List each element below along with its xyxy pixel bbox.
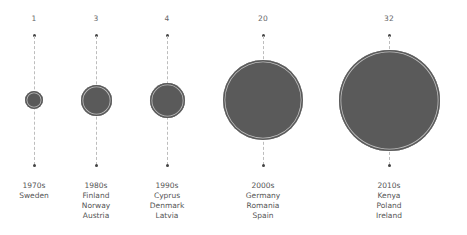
category-labels: 2000s Germany Romania Spain (228, 181, 298, 221)
country-label: Romania (228, 201, 298, 211)
bottom-marker-dot (95, 164, 98, 167)
decade-label: 1990s (132, 181, 202, 191)
category-labels: 1970s Sweden (0, 181, 69, 201)
bottom-marker-dot (33, 164, 36, 167)
category-labels: 1980s Finland Norway Austria (61, 181, 131, 221)
country-label: Finland (61, 191, 131, 201)
bottom-marker-dot (166, 164, 169, 167)
country-label: Austria (61, 211, 131, 221)
bubble-chart: 1 1970s Sweden 3 1980s Finland Norway Au… (0, 0, 467, 235)
decade-label: 2010s (354, 181, 424, 191)
data-bubble (25, 91, 43, 109)
country-label: Ireland (354, 211, 424, 221)
value-label: 32 (369, 14, 409, 23)
country-label: Germany (228, 191, 298, 201)
country-label: Norway (61, 201, 131, 211)
data-bubble (150, 83, 185, 118)
country-label: Latvia (132, 211, 202, 221)
value-label: 3 (76, 14, 116, 23)
category-labels: 2010s Kenya Poland Ireland (354, 181, 424, 221)
country-label: Poland (354, 201, 424, 211)
decade-label: 1970s (0, 181, 69, 191)
country-label: Kenya (354, 191, 424, 201)
data-bubble (81, 85, 112, 116)
data-bubble (223, 60, 303, 140)
value-label: 1 (14, 14, 54, 23)
country-label: Spain (228, 211, 298, 221)
category-labels: 1990s Cyprus Denmark Latvia (132, 181, 202, 221)
country-label: Denmark (132, 201, 202, 211)
country-label: Sweden (0, 191, 69, 201)
data-bubble (339, 50, 440, 151)
value-label: 20 (243, 14, 283, 23)
country-label: Cyprus (132, 191, 202, 201)
bottom-marker-dot (262, 164, 265, 167)
decade-label: 2000s (228, 181, 298, 191)
decade-label: 1980s (61, 181, 131, 191)
bottom-marker-dot (388, 164, 391, 167)
value-label: 4 (147, 14, 187, 23)
